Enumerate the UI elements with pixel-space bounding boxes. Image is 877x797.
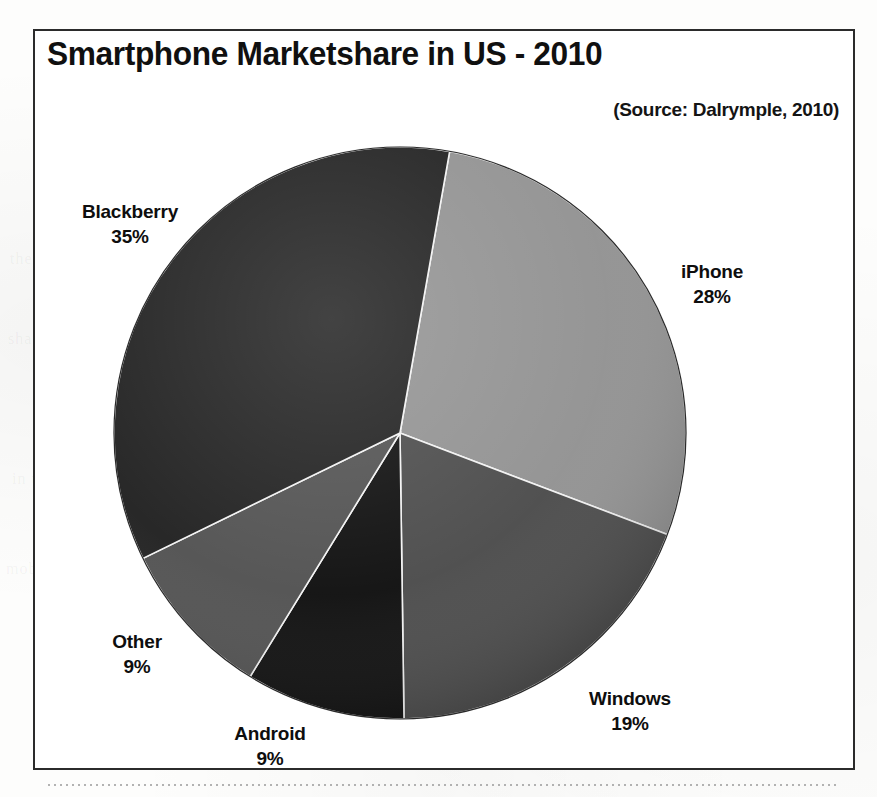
slice-label-iphone-value: 28% <box>627 284 797 309</box>
slice-label-other-name: Other <box>57 629 217 654</box>
slice-label-android-name: Android <box>175 721 365 746</box>
slice-label-windows-name: Windows <box>535 686 725 711</box>
slice-label-iphone-name: iPhone <box>627 259 797 284</box>
slice-label-iphone: iPhone 28% <box>627 259 797 309</box>
slice-label-other: Other 9% <box>57 629 217 679</box>
slice-label-windows: Windows 19% <box>535 686 725 736</box>
page-dotted-rule <box>48 784 838 786</box>
slice-label-blackberry-name: Blackberry <box>35 199 225 224</box>
slice-label-blackberry: Blackberry 35% <box>35 199 225 249</box>
slice-label-blackberry-value: 35% <box>35 224 225 249</box>
pie-chart: Blackberry 35% iPhone 28% Windows 19% Ot… <box>35 31 857 772</box>
slice-label-other-value: 9% <box>57 654 217 679</box>
slice-label-android-value: 9% <box>175 746 365 771</box>
slice-label-android: Android 9% <box>175 721 365 771</box>
figure-frame: Smartphone Marketshare in US - 2010 (Sou… <box>33 29 855 770</box>
slice-label-windows-value: 19% <box>535 711 725 736</box>
